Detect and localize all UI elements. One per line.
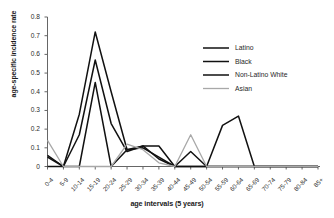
y-tick-label: 0.5 xyxy=(18,69,40,76)
series-line xyxy=(48,32,319,167)
legend-item-label: Latino xyxy=(235,44,254,51)
y-tick-label: 0.6 xyxy=(18,50,40,57)
data-series-layer xyxy=(48,32,319,167)
legend-item-label: Asian xyxy=(235,85,252,92)
legend-item-label: Non-Latino White xyxy=(235,71,288,78)
y-tick-label: 0.1 xyxy=(18,144,40,151)
y-tick-label: 0.2 xyxy=(18,125,40,132)
chart-figure: age-specific incidence rate age interval… xyxy=(0,0,334,218)
x-axis-title: age intervals (5 years) xyxy=(0,199,334,208)
legend-item-label: Black xyxy=(235,58,252,65)
y-tick-label: 0.8 xyxy=(18,13,40,20)
y-tick-label: 0.7 xyxy=(18,32,40,39)
legend-line-swatches xyxy=(203,48,229,89)
y-tick-label: 0 xyxy=(18,163,40,170)
series-line xyxy=(48,135,319,167)
y-tick-label: 0.3 xyxy=(18,106,40,113)
y-tick-label: 0.4 xyxy=(18,88,40,95)
